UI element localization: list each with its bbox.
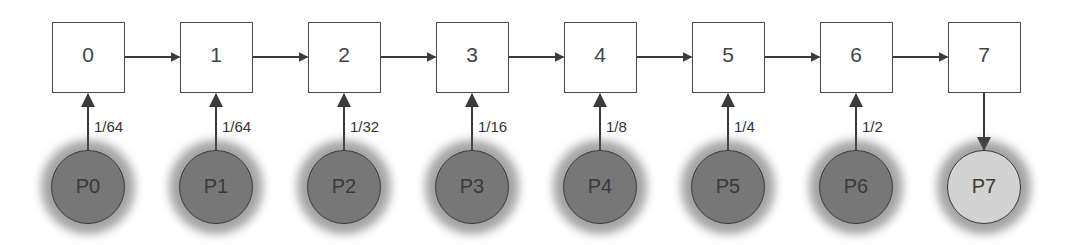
node-box-5: 5: [692, 22, 765, 93]
process-label: P2: [308, 175, 380, 198]
process-label: P6: [820, 175, 892, 198]
probability-label: 1/64: [222, 118, 251, 135]
process-label: P1: [180, 175, 252, 198]
node-label: 1: [181, 43, 252, 67]
node-box-6: 6: [820, 22, 893, 93]
node-box-0: 0: [52, 22, 125, 93]
diagram-canvas: 01234567 P01/64P11/64P21/32P31/16P41/8P5…: [0, 0, 1065, 245]
node-box-4: 4: [564, 22, 637, 93]
process-node-p4: P4: [563, 150, 637, 224]
process-label: P0: [52, 175, 124, 198]
probability-label: 1/32: [350, 118, 379, 135]
node-label: 0: [53, 43, 124, 67]
process-node-p3: P3: [435, 150, 509, 224]
process-node-p1: P1: [179, 150, 253, 224]
node-box-2: 2: [308, 22, 381, 93]
node-box-1: 1: [180, 22, 253, 93]
probability-label: 1/8: [606, 118, 627, 135]
process-node-p7: P7: [947, 150, 1021, 224]
probability-label: 1/16: [478, 118, 507, 135]
process-node-p5: P5: [691, 150, 765, 224]
node-box-3: 3: [436, 22, 509, 93]
node-label: 2: [309, 43, 380, 67]
process-node-p0: P0: [51, 150, 125, 224]
process-node-p6: P6: [819, 150, 893, 224]
node-label: 5: [693, 43, 764, 67]
probability-label: 1/2: [862, 118, 883, 135]
node-label: 6: [821, 43, 892, 67]
process-label: P7: [948, 175, 1020, 198]
node-box-7: 7: [948, 22, 1021, 93]
process-node-p2: P2: [307, 150, 381, 224]
process-label: P5: [692, 175, 764, 198]
node-label: 4: [565, 43, 636, 67]
process-label: P4: [564, 175, 636, 198]
node-label: 3: [437, 43, 508, 67]
process-label: P3: [436, 175, 508, 198]
probability-label: 1/4: [734, 118, 755, 135]
probability-label: 1/64: [94, 118, 123, 135]
connectors-layer: [0, 0, 1065, 245]
node-label: 7: [949, 43, 1020, 67]
